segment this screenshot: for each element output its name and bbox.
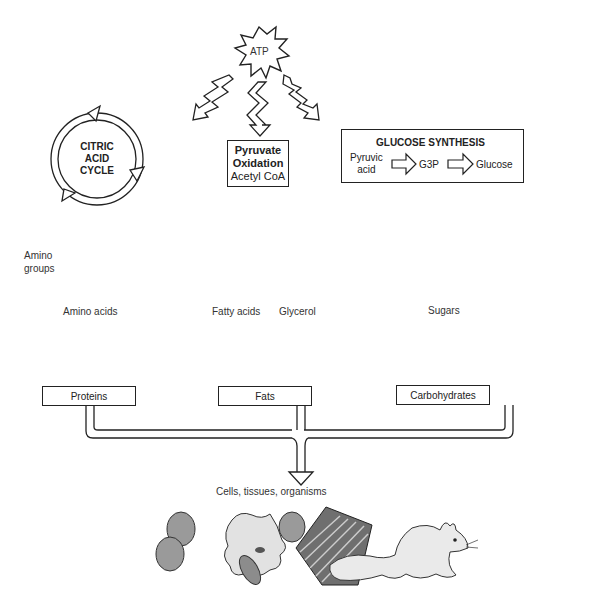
amino-acids-label: Amino acids xyxy=(63,306,117,317)
proteins-box: Proteins xyxy=(42,386,136,406)
sugars-label: Sugars xyxy=(428,305,460,316)
glucose-synthesis-box: GLUCOSE SYNTHESIS Pyruvic acid G3P Gluco… xyxy=(341,129,524,183)
glucose-synthesis-title: GLUCOSE SYNTHESIS xyxy=(376,137,485,148)
citric-acid-cycle-label: CITRIC ACID CYCLE xyxy=(67,141,127,177)
convergence-pipe-icon xyxy=(86,405,513,472)
result-label: Cells, tissues, organisms xyxy=(216,486,327,497)
amino-groups-line1: Amino xyxy=(24,249,55,262)
pyruvic-acid-label: Pyruvic acid xyxy=(350,152,383,176)
glucose-label: Glucose xyxy=(476,159,513,170)
citric-line3: CYCLE xyxy=(67,165,127,177)
pyruvate-line1: Pyruvate xyxy=(228,144,288,157)
zigzag-arrow-right-icon xyxy=(283,75,319,120)
amino-groups-line2: groups xyxy=(24,262,55,275)
arrow-down-to-result-icon xyxy=(289,472,313,485)
fatty-acids-label: Fatty acids xyxy=(212,306,260,317)
pyruvate-line2: Oxidation xyxy=(228,157,288,170)
pyruvic-line1: Pyruvic xyxy=(350,152,383,164)
amoeboid-cell-icon xyxy=(224,512,305,588)
g3p-label: G3P xyxy=(419,159,439,170)
atp-label: ATP xyxy=(250,46,269,57)
carbohydrates-box: Carbohydrates xyxy=(396,385,490,405)
citric-line2: ACID xyxy=(67,153,127,165)
amino-groups-label: Amino groups xyxy=(24,249,55,275)
red-blood-cells-icon xyxy=(156,512,195,571)
pyruvic-line2: acid xyxy=(350,164,383,176)
fats-box: Fats xyxy=(218,386,312,406)
pyruvate-oxidation-box: Pyruvate Oxidation Acetyl CoA xyxy=(227,140,289,187)
citric-line1: CITRIC xyxy=(67,141,127,153)
zigzag-arrow-left-icon xyxy=(193,75,233,120)
zigzag-arrow-down-icon xyxy=(247,82,270,136)
pyruvate-line3: Acetyl CoA xyxy=(228,170,288,183)
glycerol-label: Glycerol xyxy=(279,306,316,317)
